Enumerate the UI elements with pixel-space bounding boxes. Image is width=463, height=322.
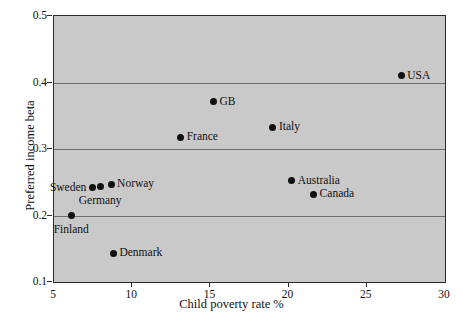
point-label-gb: GB	[220, 96, 236, 108]
gridline-y-0.3	[54, 149, 445, 150]
x-tick-mark-10	[131, 282, 132, 287]
data-point-denmark[interactable]	[110, 250, 117, 257]
data-point-germany[interactable]	[97, 183, 104, 190]
data-point-usa[interactable]	[398, 72, 405, 79]
y-axis-title: Preferred income beta	[23, 66, 38, 246]
scatter-chart-figure: USAGBItalyFranceAustraliaNorwayGermanySw…	[0, 0, 463, 322]
plot-area: USAGBItalyFranceAustraliaNorwayGermanySw…	[53, 15, 446, 283]
data-point-norway[interactable]	[108, 181, 115, 188]
point-label-finland: Finland	[54, 224, 89, 236]
y-tick-mark-0.3	[47, 148, 52, 149]
point-label-italy: Italy	[279, 121, 300, 133]
data-point-canada[interactable]	[310, 191, 317, 198]
point-label-denmark: Denmark	[119, 248, 162, 260]
data-point-gb[interactable]	[210, 98, 217, 105]
data-point-italy[interactable]	[269, 124, 276, 131]
point-label-canada: Canada	[320, 188, 354, 200]
x-axis-title: Child poverty rate %	[0, 297, 463, 312]
point-label-france: France	[187, 131, 218, 143]
y-tick-mark-0.5	[47, 15, 52, 16]
x-tick-mark-25	[366, 282, 367, 287]
data-point-finland[interactable]	[68, 212, 75, 219]
data-point-sweden[interactable]	[89, 184, 96, 191]
x-tick-mark-20	[288, 282, 289, 287]
point-label-norway: Norway	[117, 178, 154, 190]
y-tick-mark-0.4	[47, 82, 52, 83]
point-label-sweden: Sweden	[50, 182, 86, 194]
point-label-germany: Germany	[79, 195, 122, 207]
y-tick-mark-0.2	[47, 215, 52, 216]
gridline-y-0.2	[54, 216, 445, 217]
data-point-australia[interactable]	[288, 177, 295, 184]
point-label-australia: Australia	[298, 175, 340, 187]
x-tick-mark-15	[209, 282, 210, 287]
point-label-usa: USA	[407, 70, 430, 82]
gridline-y-0.4	[54, 83, 445, 84]
data-point-france[interactable]	[177, 134, 184, 141]
